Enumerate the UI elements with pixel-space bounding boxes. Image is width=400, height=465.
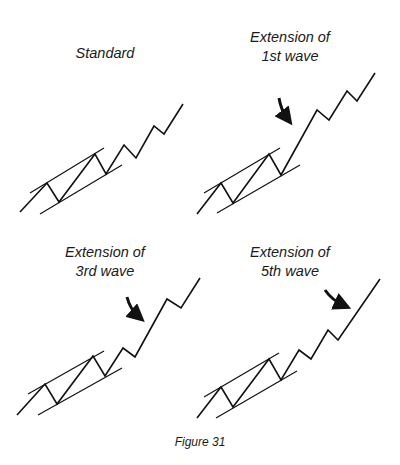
lower-channel-line (217, 165, 300, 213)
panel-extension-3rd (17, 278, 200, 415)
wave-path (17, 278, 200, 415)
lower-channel-line (216, 371, 297, 418)
elliott-wave-diagram (0, 0, 400, 465)
wave-path (197, 73, 375, 214)
panel-extension-1st (197, 73, 375, 214)
caption-text: Figure 31 (175, 435, 226, 449)
upper-channel-line (30, 148, 104, 193)
panel-extension-5th (197, 279, 380, 418)
wave-path (197, 279, 380, 418)
arrow-icon (325, 290, 343, 305)
arrow-icon (127, 297, 138, 316)
figure-caption: Figure 31 (150, 435, 250, 449)
lower-channel-line (38, 368, 122, 415)
panel-standard (20, 104, 183, 214)
arrow-icon (279, 98, 287, 118)
wave-path (20, 104, 183, 212)
